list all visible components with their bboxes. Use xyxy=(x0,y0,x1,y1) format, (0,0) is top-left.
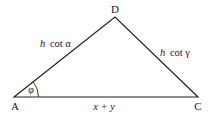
side-label-dc-cot: cot γ xyxy=(170,47,190,58)
angle-label-phi: φ xyxy=(28,84,34,95)
side-label-dc: h cot γ xyxy=(160,47,190,58)
vertex-label-c: C xyxy=(194,100,201,112)
side-label-dc-h: h xyxy=(160,47,165,58)
side-label-ad-h: h xyxy=(40,38,45,49)
side-label-ad-cot: cot α xyxy=(50,38,71,49)
angle-arc-phi xyxy=(33,82,38,97)
side-label-ac: x + y xyxy=(92,101,115,112)
triangle-diagram: D A C h cot α h cot γ x + y φ xyxy=(0,0,209,119)
vertex-label-a: A xyxy=(11,100,19,112)
side-label-ad: h cot α xyxy=(40,38,71,49)
vertex-label-d: D xyxy=(111,3,119,15)
